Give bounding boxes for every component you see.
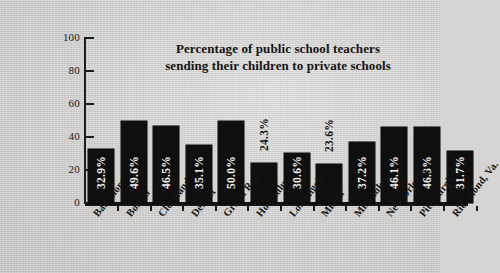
- x-tick-mark: [443, 206, 445, 211]
- x-tick-mark: [410, 206, 412, 211]
- x-tick-mark: [215, 206, 217, 211]
- bar-slot: 32.9%: [88, 38, 114, 203]
- y-tick-label: 100: [44, 31, 80, 43]
- bar-slot: 30.6%: [284, 38, 310, 203]
- x-tick-mark: [345, 206, 347, 211]
- x-tick-mark: [182, 206, 184, 211]
- y-tick-label: 0: [44, 196, 80, 208]
- x-tick-mark: [150, 206, 152, 211]
- y-tick-label: 40: [44, 130, 80, 142]
- y-axis-tick-labels: 020406080100: [40, 16, 80, 273]
- x-tick-mark: [378, 206, 380, 211]
- x-tick-mark: [476, 206, 478, 211]
- bar-slot: 46.5%: [153, 38, 179, 203]
- bar-slot: 37.2%: [349, 38, 375, 203]
- y-tick-label: 80: [44, 64, 80, 76]
- x-tick-mark: [313, 206, 315, 211]
- bar-chart: Percentage of public school teachers sen…: [40, 16, 480, 273]
- bar-value-label: 23.6%: [316, 109, 342, 161]
- bar-slot: 50.0%: [218, 38, 244, 203]
- x-tick-mark: [117, 206, 119, 211]
- y-tick-label: 20: [44, 163, 80, 175]
- x-tick-mark: [280, 206, 282, 211]
- bar-value-label: 24.3%: [251, 108, 277, 160]
- y-tick-label: 60: [44, 97, 80, 109]
- bar-slot: 35.1%: [186, 38, 212, 203]
- x-tick-mark: [247, 206, 249, 211]
- bar-slot: 49.6%: [121, 38, 147, 203]
